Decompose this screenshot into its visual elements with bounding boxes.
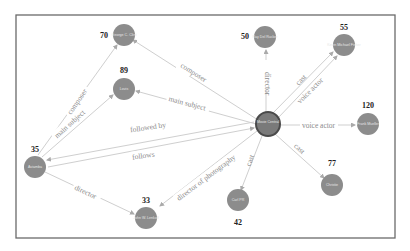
- node-label: George C. Clint: [112, 33, 137, 37]
- edge-labels: composer main subject director cast voic…: [50, 60, 338, 204]
- node-label: Frank Mueller: [357, 122, 380, 126]
- node-count: 42: [234, 218, 242, 227]
- edge-label: cast: [294, 72, 309, 87]
- node-center[interactable]: Movie Central: [256, 112, 280, 136]
- node-label: John W. Lenkoff: [133, 216, 159, 220]
- node-count: 35: [31, 145, 39, 154]
- node-42[interactable]: Carl PR 42: [227, 189, 249, 227]
- edge-label: cast: [292, 141, 307, 156]
- node-70[interactable]: George C. Clint 70: [100, 24, 136, 46]
- node-count: 70: [100, 31, 108, 40]
- node-label: Aviamba: [28, 165, 42, 169]
- node-35[interactable]: Aviamba 35: [24, 145, 46, 178]
- node-label: Lovis: [120, 87, 129, 91]
- node-label: Carl PR: [232, 198, 245, 202]
- node-77[interactable]: Christie 77: [321, 159, 343, 196]
- edge-label: director: [263, 72, 272, 96]
- node-50[interactable]: Ray Del Rucker 50: [241, 26, 278, 48]
- node-count: 50: [241, 32, 249, 41]
- graph-canvas: composer main subject director cast voic…: [0, 0, 410, 251]
- node-120[interactable]: Frank Mueller 120: [357, 101, 380, 135]
- edge-label: director: [73, 183, 98, 201]
- node-count: 89: [120, 66, 128, 75]
- edge-label: main subject: [168, 94, 208, 113]
- node-label: Christie: [326, 183, 338, 187]
- edge-cast-77: [274, 133, 324, 178]
- edge-label: follows: [132, 150, 156, 162]
- node-circle[interactable]: [256, 112, 280, 136]
- knowledge-graph: composer main subject director cast voic…: [0, 0, 410, 251]
- node-label: Movie Central: [257, 120, 279, 124]
- edge-label: director of photography: [175, 152, 238, 202]
- node-count: 55: [340, 23, 348, 32]
- node-count: 77: [328, 159, 336, 168]
- edge-label: voice actor: [302, 121, 336, 130]
- node-count: 33: [142, 196, 150, 205]
- node-label: Kevin Michael Fisher: [327, 43, 361, 47]
- node-label: Ray Del Rucker: [252, 35, 278, 39]
- node-55[interactable]: Kevin Michael Fisher 55: [327, 23, 361, 56]
- node-89[interactable]: Lovis 89: [113, 66, 135, 100]
- node-count: 120: [362, 101, 374, 110]
- node-33[interactable]: John W. Lenkoff 33: [133, 196, 159, 229]
- edge-label: followed by: [130, 120, 167, 134]
